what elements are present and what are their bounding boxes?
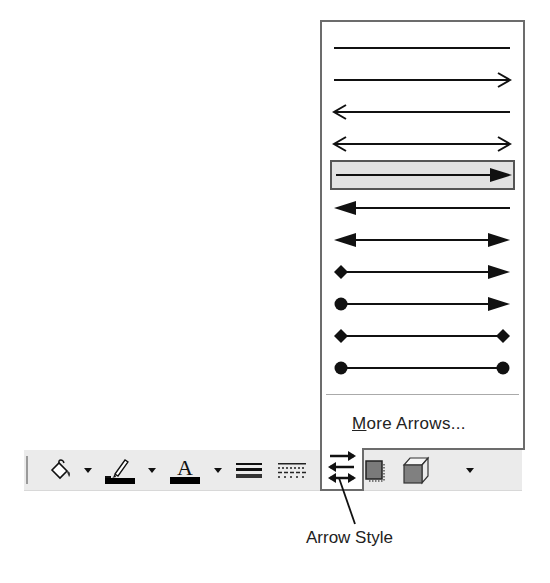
cube-3d-icon xyxy=(398,455,434,485)
arrow-option-6[interactable] xyxy=(330,194,515,222)
more-arrows-menu-item[interactable]: More Arrows... xyxy=(352,414,466,434)
arrow-option-10[interactable] xyxy=(330,322,515,350)
dash-style-icon xyxy=(276,460,308,480)
fill-color-dropdown[interactable] xyxy=(84,468,92,473)
arrow-option-2[interactable] xyxy=(330,66,515,94)
arrow-option-11[interactable] xyxy=(330,354,515,382)
font-color-button[interactable]: A xyxy=(168,458,202,482)
svg-text:A: A xyxy=(177,456,193,480)
arrow-option-4[interactable] xyxy=(330,130,515,158)
line-style-icon xyxy=(234,460,264,480)
3d-style-button[interactable] xyxy=(396,458,436,482)
toolbar-options-chevron-down-icon[interactable] xyxy=(466,468,474,473)
arrow-style-menu: More Arrows... xyxy=(320,20,525,450)
font-color-dropdown[interactable] xyxy=(214,468,222,473)
callout-label: Arrow Style xyxy=(306,528,393,548)
line-color-dropdown[interactable] xyxy=(148,468,156,473)
more-arrows-label: ore Arrows... xyxy=(366,414,465,433)
toolbar-grip[interactable] xyxy=(26,456,28,484)
arrow-option-8[interactable] xyxy=(330,258,515,286)
menu-separator xyxy=(326,394,519,395)
arrow-option-9[interactable] xyxy=(330,290,515,318)
arrow-option-5-selected[interactable] xyxy=(330,160,515,190)
arrow-option-1[interactable] xyxy=(330,34,515,62)
fill-color-button[interactable] xyxy=(48,458,74,482)
callout-line xyxy=(335,476,365,526)
mnemonic-letter: M xyxy=(352,414,366,433)
line-color-button[interactable] xyxy=(102,458,138,482)
paintbrush-icon xyxy=(103,456,137,484)
drawing-toolbar: A xyxy=(24,450,522,491)
letter-a-icon: A xyxy=(168,456,202,484)
paint-bucket-icon xyxy=(48,458,74,482)
arrow-option-7[interactable] xyxy=(330,226,515,254)
dash-style-button[interactable] xyxy=(276,458,308,482)
arrow-option-3[interactable] xyxy=(330,98,515,126)
line-style-button[interactable] xyxy=(234,458,264,482)
